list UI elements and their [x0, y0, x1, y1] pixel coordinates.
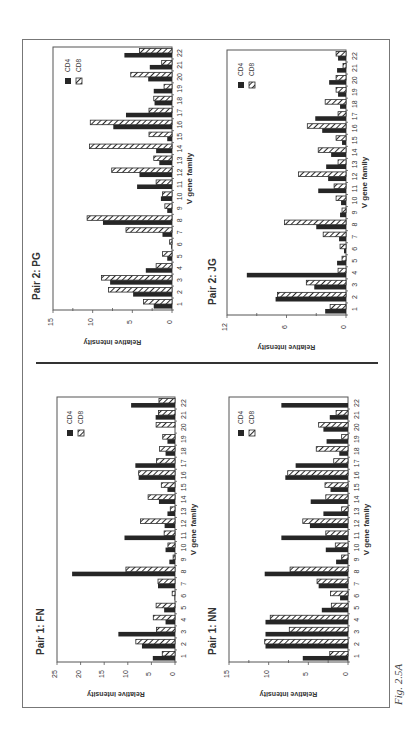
- bar-cd8: [336, 136, 346, 141]
- bar-cd4: [154, 304, 172, 309]
- bar-cd4: [339, 237, 346, 242]
- bar-cd8: [139, 471, 175, 476]
- value-tick-label: 10: [87, 318, 94, 326]
- bar-cd8: [164, 84, 172, 89]
- bar-cd8: [326, 495, 348, 500]
- bar-cd8: [90, 120, 172, 125]
- bar-cd8: [172, 591, 175, 596]
- bar-cd4: [167, 439, 175, 444]
- bar-cd8: [148, 495, 175, 500]
- category-label: 18: [176, 97, 183, 105]
- category-label: 21: [180, 411, 187, 419]
- legend-label-cd4: CD4: [64, 59, 71, 72]
- bar-cd8: [89, 144, 172, 149]
- value-tick-label: 0: [166, 320, 173, 324]
- bar-cd4: [162, 232, 172, 237]
- category-label: 15: [351, 136, 358, 144]
- bar-cd8: [334, 184, 346, 189]
- value-tick-label: 15: [98, 670, 105, 678]
- bar-cd4: [329, 80, 346, 85]
- legend-label-cd8: CD8: [248, 411, 255, 424]
- bar-cd8: [157, 459, 175, 464]
- bar-cd4: [316, 225, 346, 230]
- bar-cd4: [150, 65, 172, 70]
- bar-cd8: [154, 156, 172, 161]
- bar-cd8: [317, 579, 348, 584]
- category-label: 10: [176, 192, 183, 200]
- bar-cd4: [315, 116, 346, 121]
- charts-canvas: 1234567891011121314151617181920212205101…: [0, 0, 416, 739]
- value-tick-label: 6: [281, 325, 288, 329]
- bar-cd8: [149, 132, 172, 137]
- bar-cd8: [156, 264, 172, 269]
- bar-cd4: [325, 309, 346, 314]
- category-label: 19: [351, 88, 358, 96]
- chart-title: Pair 2: JG: [207, 258, 218, 305]
- category-label: 6: [353, 594, 360, 598]
- bar-cd8: [336, 410, 348, 415]
- bar-cd8: [331, 591, 348, 596]
- bar-cd4: [171, 244, 172, 249]
- bar-cd4: [142, 644, 175, 649]
- bar-cd4: [154, 89, 172, 94]
- category-label: 22: [353, 399, 360, 407]
- category-label: 11: [176, 181, 183, 188]
- bar-cd4: [281, 403, 348, 408]
- bar-cd4: [339, 451, 348, 456]
- y-axis-label: Relative intensity: [84, 338, 142, 346]
- category-label: 3: [351, 283, 358, 287]
- category-label: 16: [351, 124, 358, 132]
- bar-cd4: [166, 548, 175, 553]
- bar-cd4: [124, 53, 172, 58]
- category-label: 20: [351, 76, 358, 84]
- category-label: 4: [176, 266, 183, 270]
- category-label: 12: [353, 519, 360, 527]
- category-label: 10: [351, 197, 358, 205]
- bar-cd8: [330, 651, 348, 656]
- chart-title: Pair 2: PG: [31, 252, 42, 300]
- category-label: 9: [351, 211, 358, 215]
- bar-cd4: [159, 499, 175, 504]
- category-label: 7: [353, 582, 360, 586]
- bar-cd4: [326, 164, 346, 169]
- bar-cd8: [342, 256, 346, 261]
- category-label: 19: [180, 435, 187, 443]
- bar-cd4: [156, 149, 172, 154]
- bar-cd8: [154, 96, 172, 101]
- category-label: 6: [180, 594, 187, 598]
- bar-cd4: [110, 280, 172, 285]
- value-tick-label: 10: [263, 670, 270, 678]
- legend-swatch-cd8: [78, 430, 84, 436]
- category-label: 4: [180, 618, 187, 622]
- category-label: 22: [351, 52, 358, 60]
- bar-cd4: [167, 208, 172, 213]
- bar-cd4: [169, 560, 175, 565]
- bar-cd8: [338, 160, 346, 165]
- figure-caption: Fig. 2.5A: [392, 664, 404, 705]
- legend-label-cd4: CD4: [237, 411, 244, 424]
- value-tick-label: 5: [145, 672, 152, 676]
- bar-cd8: [112, 168, 172, 173]
- bar-cd8: [303, 519, 348, 524]
- bar-cd8: [164, 531, 175, 536]
- category-label: 15: [353, 483, 360, 491]
- category-label: 8: [351, 223, 358, 227]
- category-label: 11: [180, 532, 187, 539]
- category-label: 4: [351, 271, 358, 275]
- category-label: 12: [180, 519, 187, 527]
- x-axis-label: V gene family: [360, 156, 369, 208]
- legend-swatch-cd4: [65, 78, 71, 84]
- bar-cd8: [159, 398, 175, 403]
- bar-cd4: [113, 125, 172, 130]
- bar-cd8: [163, 435, 175, 440]
- legend-swatch-cd8: [249, 82, 255, 88]
- category-label: 1: [180, 654, 187, 658]
- bar-cd4: [158, 584, 175, 589]
- y-axis-label: Relative intensity: [260, 690, 318, 698]
- bar-cd4: [328, 176, 346, 181]
- category-label: 20: [353, 423, 360, 431]
- bar-cd8: [338, 268, 346, 273]
- bar-cd4: [326, 548, 348, 553]
- bar-cd4: [139, 475, 175, 480]
- plot-area: [57, 397, 175, 662]
